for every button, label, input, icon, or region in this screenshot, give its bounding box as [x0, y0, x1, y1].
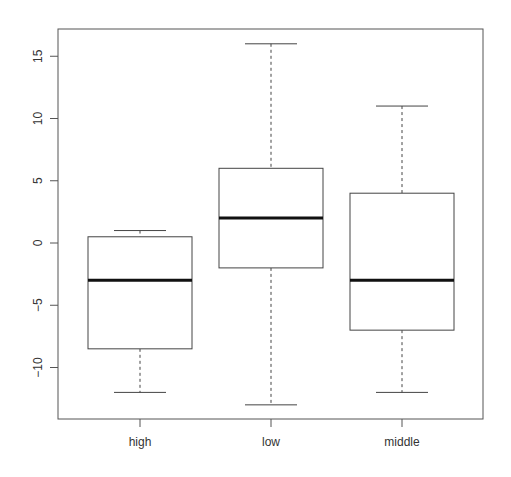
x-axis: highlowmiddle	[129, 419, 420, 449]
box-high	[88, 231, 192, 393]
iqr-box	[350, 193, 454, 330]
y-axis: −10−5051015	[31, 49, 58, 377]
box-low	[219, 44, 323, 405]
iqr-box	[88, 237, 192, 349]
y-tick-label: 15	[31, 49, 45, 63]
boxplot-chart: −10−5051015 highlowmiddle	[0, 0, 511, 477]
y-tick-label: −5	[31, 298, 45, 312]
x-tick-label: middle	[384, 435, 420, 449]
boxes	[88, 44, 454, 405]
box-middle	[350, 106, 454, 392]
x-tick-label: high	[129, 435, 152, 449]
x-tick-label: low	[262, 435, 280, 449]
y-tick-label: −10	[31, 357, 45, 378]
y-tick-label: 5	[31, 177, 45, 184]
y-tick-label: 10	[31, 112, 45, 126]
y-tick-label: 0	[31, 239, 45, 246]
